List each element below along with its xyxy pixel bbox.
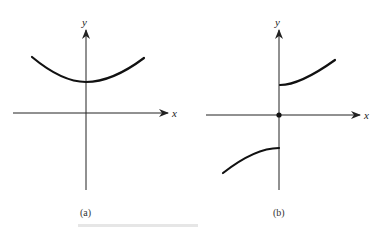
- origin-point: [276, 112, 281, 117]
- panel-b: y x (b): [206, 16, 369, 219]
- caption-b: (b): [273, 207, 285, 219]
- faint-text-band: [78, 224, 198, 227]
- figure-canvas: y x (a) y x (b): [0, 0, 384, 227]
- x-axis-label-a: x: [171, 107, 177, 119]
- y-axis-label-a: y: [81, 16, 87, 28]
- curve-b-upper: [280, 60, 335, 85]
- curve-a: [32, 57, 144, 82]
- curve-b-lower: [223, 148, 279, 173]
- y-axis-label-b: y: [274, 16, 280, 28]
- x-axis-label-b: x: [363, 109, 369, 121]
- caption-a: (a): [80, 207, 91, 219]
- panel-a: y x (a): [13, 16, 177, 219]
